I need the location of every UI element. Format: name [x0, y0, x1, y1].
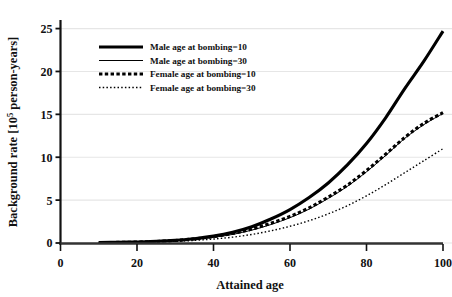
y-tick-label-10: 10 — [41, 151, 53, 165]
x-tick-label-0: 0 — [58, 256, 64, 270]
background-rate-line-chart: 0510152025 020406080100 Attained age Bac… — [0, 0, 452, 297]
legend-label-3: Female age at bombing=30 — [150, 83, 256, 93]
x-tick-label-40: 40 — [208, 256, 220, 270]
x-tick-label-60: 60 — [284, 256, 296, 270]
y-tick-label-20: 20 — [41, 65, 53, 79]
y-axis-title-suffix: person-years] — [6, 37, 20, 113]
series-line-2 — [99, 113, 443, 243]
series-line-3 — [99, 149, 443, 243]
x-tick-label-80: 80 — [361, 256, 373, 270]
y-tick-label-5: 5 — [47, 194, 53, 208]
y-tick-label-15: 15 — [41, 108, 53, 122]
y-axis-title-prefix: Background rate [10 — [6, 117, 20, 227]
legend: Male age at bombing=10Male age at bombin… — [99, 42, 256, 93]
x-tick-label-20: 20 — [131, 256, 143, 270]
y-axis-title: Background rate [105 person-years] — [5, 37, 20, 227]
y-tick-label-0: 0 — [47, 236, 53, 250]
x-tick-label-100: 100 — [434, 256, 452, 270]
chart-figure: 0510152025 020406080100 Attained age Bac… — [0, 0, 452, 297]
series-line-1 — [99, 113, 443, 242]
legend-label-0: Male age at bombing=10 — [150, 42, 247, 52]
x-axis-title: Attained age — [216, 278, 284, 292]
axes-group — [59, 20, 443, 244]
x-tick-group: 020406080100 — [58, 244, 452, 270]
y-tick-label-25: 25 — [41, 22, 53, 36]
legend-label-2: Female age at bombing=10 — [150, 69, 256, 79]
legend-label-1: Male age at bombing=30 — [150, 56, 247, 66]
y-tick-group: 0510152025 — [41, 22, 61, 250]
